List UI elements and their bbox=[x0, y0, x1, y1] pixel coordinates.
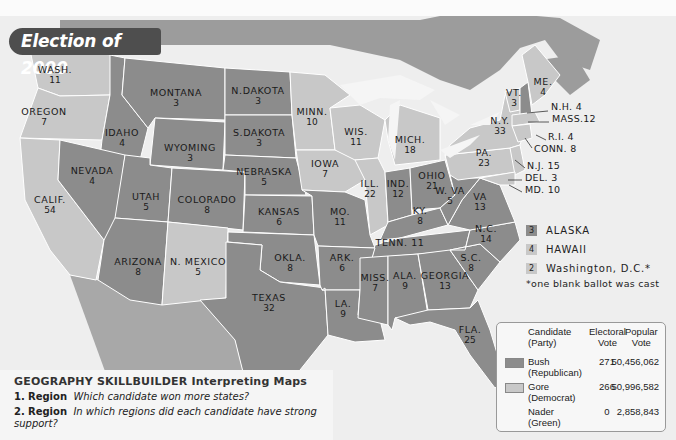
skillbuilder-title: GEOGRAPHY SKILLBUILDER Interpreting Maps bbox=[14, 375, 307, 388]
state-label: N. MEXICO5 bbox=[170, 256, 226, 278]
electoral-vote: 0 bbox=[597, 406, 617, 417]
party-swatch: 4 bbox=[526, 244, 537, 255]
footnote: *one blank ballot was cast bbox=[526, 278, 659, 289]
state-label: MISS.7 bbox=[360, 272, 389, 294]
state-label: ALA.9 bbox=[393, 270, 417, 292]
state-label: W. VA5 bbox=[435, 185, 465, 207]
state-label: VA13 bbox=[473, 191, 487, 213]
state-label: UTAH5 bbox=[132, 191, 160, 213]
state-label: NEVADA4 bbox=[71, 165, 114, 187]
party-swatch bbox=[505, 358, 524, 368]
question-2: 2. Region In which regions did each cand… bbox=[14, 406, 329, 430]
state-label: VT.3 bbox=[506, 87, 522, 109]
state-callout-label: MASS.12 bbox=[552, 113, 596, 124]
small-state-row: 4HAWAII bbox=[526, 241, 651, 257]
geography-skillbuilder: GEOGRAPHY SKILLBUILDER Interpreting Maps… bbox=[0, 370, 333, 440]
state-label: MO.11 bbox=[330, 206, 350, 228]
state-callout-label: N.H. 4 bbox=[551, 101, 582, 112]
state-label: WIS.11 bbox=[344, 126, 368, 148]
state-label: KY.8 bbox=[413, 205, 428, 227]
state-callout-label: R.I. 4 bbox=[548, 131, 574, 142]
state-label: COLORADO8 bbox=[178, 194, 237, 216]
state-label: MINN.10 bbox=[296, 106, 327, 128]
state-label: ME.4 bbox=[533, 76, 552, 98]
state-callout-label: MD. 10 bbox=[525, 184, 560, 195]
popular-vote: 50,996,582 bbox=[611, 381, 659, 392]
state-callout-label: CONN. 8 bbox=[534, 143, 577, 154]
state-label: OREGON7 bbox=[21, 106, 67, 128]
candidate-name: Nader(Green) bbox=[528, 406, 561, 428]
state-label: ILL.22 bbox=[361, 178, 380, 200]
state-label: WASH.11 bbox=[38, 64, 72, 86]
legend-header-candidate: Candidate(Party) bbox=[528, 326, 571, 348]
state-label: N.Y.33 bbox=[490, 115, 509, 137]
state-label: TENN. 11 bbox=[376, 237, 425, 248]
state-label: MICH.18 bbox=[395, 134, 426, 156]
question-1: 1. Region Which candidate won more state… bbox=[14, 391, 329, 403]
legend-header-popular: PopularVote bbox=[625, 326, 658, 348]
state-label: FLA.25 bbox=[459, 324, 482, 346]
state-callout-label: N.J. 15 bbox=[527, 160, 560, 171]
party-swatch bbox=[505, 383, 524, 393]
legend-header-electoral: ElectoralVote bbox=[589, 326, 626, 348]
state-label: MONTANA3 bbox=[150, 87, 202, 109]
state-label: S.DAKOTA3 bbox=[233, 127, 285, 149]
state-label: IND.12 bbox=[387, 178, 410, 200]
state-label: N.C.14 bbox=[475, 223, 497, 245]
results-legend: Candidate(Party) ElectoralVote PopularVo… bbox=[496, 322, 666, 432]
state-callout-label: DEL. 3 bbox=[525, 172, 558, 183]
candidate-name: Gore(Democrat) bbox=[528, 381, 576, 403]
state-label: NEBRASKA5 bbox=[236, 166, 292, 188]
candidate-name: Bush(Republican) bbox=[528, 356, 582, 378]
popular-vote: 2,858,843 bbox=[617, 406, 659, 417]
state-label: CALIF.54 bbox=[34, 194, 66, 216]
small-state-row: 3ALASKA bbox=[526, 222, 651, 238]
party-swatch: 3 bbox=[526, 225, 537, 236]
state-label: KANSAS6 bbox=[258, 206, 300, 228]
state-label: WYOMING3 bbox=[164, 142, 216, 164]
state-label: OKLA.8 bbox=[274, 252, 306, 274]
state-label: N.DAKOTA3 bbox=[231, 85, 284, 107]
page-top-margin bbox=[0, 0, 676, 16]
party-swatch: 2 bbox=[526, 263, 537, 274]
state-label: ARK.6 bbox=[330, 252, 355, 274]
state-label: LA.9 bbox=[335, 298, 352, 320]
state-label: IDAHO4 bbox=[105, 127, 139, 149]
state-label: IOWA7 bbox=[311, 158, 339, 180]
state-label: PA.23 bbox=[476, 147, 492, 169]
state-label: ARIZONA8 bbox=[114, 256, 162, 278]
popular-vote: 50,456,062 bbox=[611, 356, 659, 367]
state-label: TEXAS32 bbox=[252, 292, 286, 314]
small-states-key: 3ALASKA4HAWAII2Washington, D.C.* bbox=[526, 222, 651, 279]
small-state-row: 2Washington, D.C.* bbox=[526, 260, 651, 276]
state-label: S.C.8 bbox=[460, 252, 481, 274]
map-title: Election of 2000 bbox=[9, 28, 161, 55]
